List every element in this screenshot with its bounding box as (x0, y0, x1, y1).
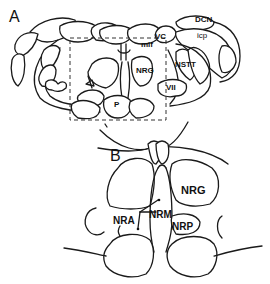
label-nrg-a: NRG (136, 67, 154, 75)
label-vii: VII (166, 84, 176, 92)
label-nra: NRA (113, 216, 135, 226)
label-dcn: DCN (195, 16, 212, 24)
label-nrp: NRP (172, 222, 193, 232)
label-mlf: mlf (141, 41, 153, 49)
label-p: P (114, 101, 119, 109)
panel-b-letter: B (110, 148, 121, 164)
label-vc: VC (155, 33, 166, 41)
figure-drawing (0, 0, 270, 284)
label-icp: icp (197, 32, 207, 40)
label-nrg-b: NRG (181, 185, 205, 196)
panel-b-drawing (64, 122, 262, 277)
brainstem-figure: A DCN VC icp mlf NRG NSTT VII P B NRG NR… (0, 0, 270, 284)
label-nrm: NRM (149, 210, 172, 220)
label-nstt: NSTT (175, 61, 196, 69)
panel-a-letter: A (9, 9, 20, 25)
